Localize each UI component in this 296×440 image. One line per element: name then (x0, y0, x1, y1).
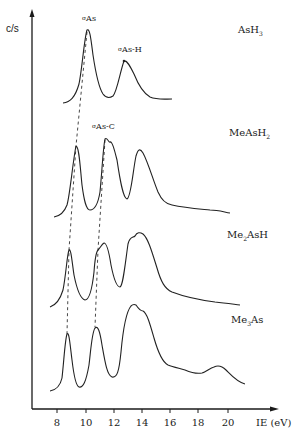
y-axis-label: c/s (6, 23, 19, 34)
correlation-lines (67, 32, 105, 334)
annotation-sigma-as: σAs (82, 14, 96, 23)
x-axis-label: IE (eV) (256, 417, 291, 428)
trace-me2ash (50, 233, 240, 307)
x-tick-label: 12 (108, 417, 121, 428)
x-tick-label: 20 (222, 417, 235, 428)
trace-ash3 (63, 30, 172, 103)
x-tick-label: 10 (80, 417, 93, 428)
x-tick-label: 18 (192, 417, 205, 428)
x-tick-label: 14 (136, 417, 149, 428)
axes: 8 10 12 14 16 18 20 IE (eV) c/s (6, 9, 291, 428)
label-meash2: MeAsH2 (229, 127, 270, 140)
label-ash3: AsH3 (237, 24, 263, 37)
label-me3as: Me3As (231, 314, 263, 327)
sigma-asc-correlation-line (95, 140, 105, 327)
x-tick-label: 8 (54, 417, 60, 428)
x-tick-label: 16 (164, 417, 177, 428)
annotation-sigma-ash: σAs-H (118, 45, 142, 54)
x-axis-arrow-icon (270, 407, 279, 412)
trace-meash2 (54, 139, 230, 217)
photoelectron-spectra-chart: 8 10 12 14 16 18 20 IE (eV) c/s AsH3 MeA… (0, 0, 296, 440)
trace-me3as (50, 304, 245, 391)
y-axis-arrow-icon (30, 9, 35, 17)
label-me2ash: Me2AsH (227, 229, 268, 242)
annotation-sigma-asc: σAs-C (92, 122, 115, 131)
ash-peak-marker (123, 60, 126, 63)
